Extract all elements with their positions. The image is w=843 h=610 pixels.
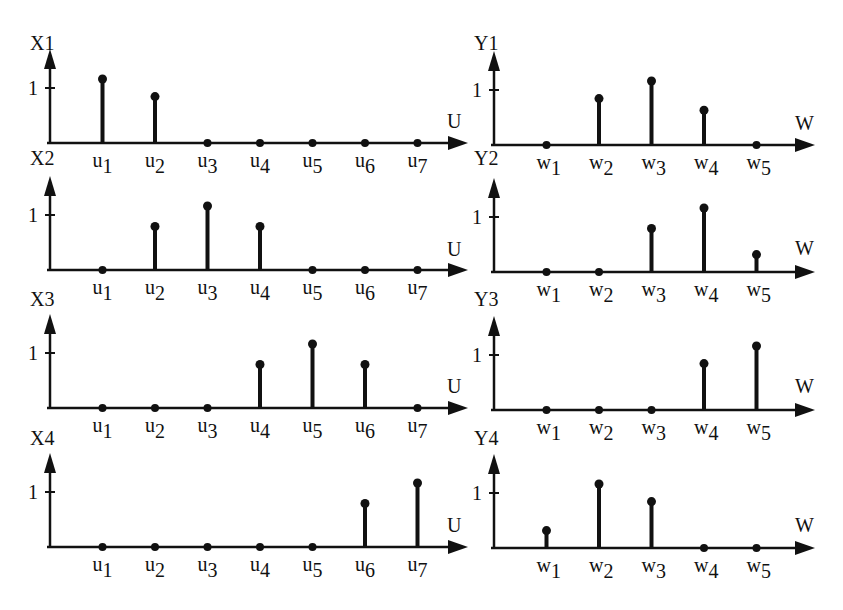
x-tick-label: u6 (355, 276, 375, 304)
x-tick-label: w5 (747, 278, 771, 306)
x-axis-label: W (795, 237, 814, 259)
stem-marker (309, 543, 317, 551)
x-tick-label: w2 (589, 416, 613, 444)
x-tick-label: u2 (145, 149, 165, 177)
x-tick-label: w1 (537, 554, 561, 582)
x-tick-label: w5 (747, 554, 771, 582)
x-axis-arrow-icon (795, 403, 815, 417)
stem-marker (700, 106, 709, 115)
stem-marker (361, 499, 370, 508)
y-axis-arrow-icon (488, 178, 500, 198)
y-tick-label: 1 (28, 342, 38, 364)
stem-marker (647, 497, 656, 506)
panel-x3: 1X3Uu1u2u3u4u5u6u7 (28, 288, 468, 442)
y-axis-label: Y4 (474, 427, 498, 449)
x-axis-label: W (795, 375, 814, 397)
y-tick-label: 1 (472, 344, 482, 366)
y-axis-label: X2 (30, 147, 54, 169)
stem-marker (413, 479, 422, 488)
x-tick-label: w3 (642, 554, 666, 582)
x-axis-label: U (447, 238, 462, 260)
x-tick-label: u2 (145, 276, 165, 304)
panel-x1: 1X1Uu1u2u3u4u5u6u7 (28, 32, 468, 177)
stem-marker (648, 406, 656, 414)
x-tick-label: u1 (93, 553, 113, 581)
stem-marker (256, 543, 264, 551)
x-tick-label: u1 (93, 149, 113, 177)
y-axis-arrow-icon (44, 176, 56, 196)
x-axis-arrow-icon (448, 263, 468, 277)
y-tick-label: 1 (472, 482, 482, 504)
stem-marker (256, 139, 264, 147)
stem-marker (98, 75, 107, 84)
stem-marker (700, 359, 709, 368)
x-tick-label: w4 (694, 554, 718, 582)
stem-marker (414, 266, 422, 274)
stem-marker (204, 543, 212, 551)
x-axis-arrow-icon (795, 138, 815, 152)
x-tick-label: u3 (198, 149, 218, 177)
x-tick-label: w2 (589, 554, 613, 582)
x-tick-label: w5 (747, 416, 771, 444)
x-axis-arrow-icon (448, 540, 468, 554)
x-axis-label: U (447, 110, 462, 132)
y-axis-arrow-icon (488, 454, 500, 474)
stem-marker (203, 202, 212, 211)
x-tick-label: u7 (408, 149, 428, 177)
x-axis-label: U (447, 375, 462, 397)
stem-marker (543, 406, 551, 414)
x-tick-label: u4 (250, 553, 270, 581)
stem-marker (151, 543, 159, 551)
x-axis-arrow-icon (795, 265, 815, 279)
x-tick-label: w3 (642, 151, 666, 179)
stem-marker (414, 139, 422, 147)
stem-marker (309, 139, 317, 147)
x-tick-label: u1 (93, 276, 113, 304)
stem-marker (595, 480, 604, 489)
x-tick-label: u4 (250, 276, 270, 304)
stem-marker (543, 141, 551, 149)
stem-marker (595, 406, 603, 414)
x-tick-label: u6 (355, 553, 375, 581)
x-tick-label: w1 (537, 278, 561, 306)
stem-marker (752, 250, 761, 259)
stem-marker (752, 342, 761, 351)
x-tick-label: u7 (408, 553, 428, 581)
stem-marker (151, 404, 159, 412)
stem-marker (256, 360, 265, 369)
stem-marker (700, 204, 709, 213)
x-tick-label: u7 (408, 276, 428, 304)
x-tick-label: w2 (589, 151, 613, 179)
y-axis-label: Y2 (474, 147, 498, 169)
x-tick-label: w2 (589, 278, 613, 306)
y-axis-arrow-icon (488, 51, 500, 71)
x-tick-label: u3 (198, 553, 218, 581)
plot-canvas: 1X1Uu1u2u3u4u5u6u71X2Uu1u2u3u4u5u6u71X3U… (0, 0, 843, 610)
stem-marker (543, 268, 551, 276)
x-tick-label: u5 (303, 276, 323, 304)
stem-marker (99, 543, 107, 551)
x-tick-label: u6 (355, 149, 375, 177)
panel-x4: 1X4Uu1u2u3u4u5u6u7 (28, 427, 468, 581)
y-axis-label: X4 (30, 427, 54, 449)
y-axis-arrow-icon (488, 316, 500, 336)
stem-marker (595, 94, 604, 103)
stem-marker (361, 139, 369, 147)
x-axis-label: W (795, 112, 814, 134)
y-tick-label: 1 (472, 79, 482, 101)
x-tick-label: w1 (537, 416, 561, 444)
x-tick-label: u2 (145, 553, 165, 581)
x-tick-label: u7 (408, 414, 428, 442)
x-tick-label: u4 (250, 414, 270, 442)
stem-marker (414, 404, 422, 412)
y-tick-label: 1 (28, 204, 38, 226)
stem-marker (647, 77, 656, 86)
y-axis-label: Y1 (474, 32, 498, 54)
x-axis-arrow-icon (448, 136, 468, 150)
stem-marker (151, 222, 160, 231)
x-tick-label: w4 (694, 151, 718, 179)
stem-marker (753, 141, 761, 149)
x-tick-label: w3 (642, 416, 666, 444)
x-tick-label: u5 (303, 149, 323, 177)
y-tick-label: 1 (28, 77, 38, 99)
